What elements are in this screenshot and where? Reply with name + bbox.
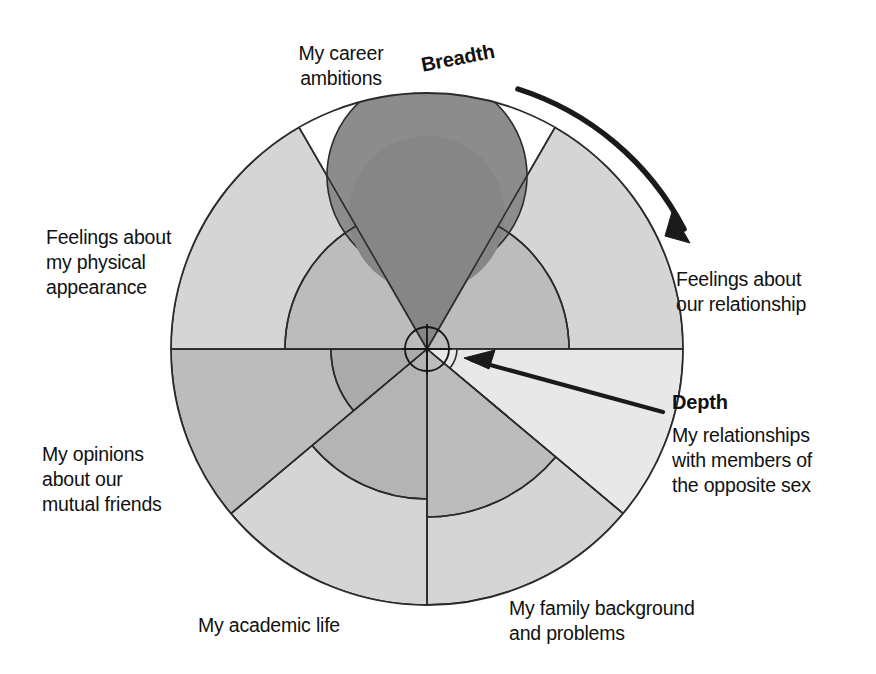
onion-model-svg [0,0,876,674]
social-penetration-diagram: My career ambitions Breadth Feelings abo… [0,0,876,674]
label-relationships-opposite-sex: My relationships with members of the opp… [672,423,872,498]
label-feelings-physical-appearance: Feelings about my physical appearance [46,225,236,300]
label-opinions-mutual-friends: My opinions about our mutual friends [42,442,232,517]
label-academic-life: My academic life [198,613,438,638]
annotation-depth: Depth [672,390,822,415]
label-career-ambitions: My career ambitions [251,41,431,91]
label-feelings-about-our-relationship: Feelings about our relationship [676,267,872,317]
label-family-background: My family background and problems [509,596,759,646]
